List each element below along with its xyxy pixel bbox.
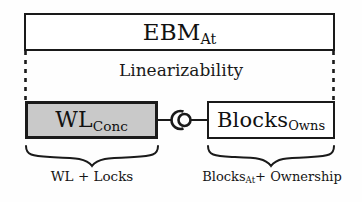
- wl-conc-base: WL: [55, 107, 93, 132]
- blocks-owns-label: BlocksOwns: [217, 110, 325, 131]
- blocks-owns-subscript: Owns: [288, 118, 325, 133]
- ebm-at-subscript: At: [201, 31, 217, 47]
- ebm-at-base: EBM: [143, 19, 201, 45]
- right-caption-part-a-subscript: At: [246, 175, 256, 185]
- blocks-owns-base: Blocks: [217, 108, 288, 132]
- left-caption-part-b: Locks: [93, 168, 133, 184]
- left-brace: [26, 146, 158, 166]
- right-brace: [208, 146, 334, 166]
- socket-icon: [172, 111, 184, 129]
- right-caption: BlocksAt+ Ownership: [192, 170, 352, 183]
- linearizability-label: Linearizability: [0, 60, 362, 80]
- left-caption-part-a: WL: [51, 168, 74, 184]
- right-caption-part-a: Blocks: [202, 169, 245, 184]
- left-caption-operator: +: [78, 168, 89, 184]
- right-caption-part-b: Ownership: [270, 169, 342, 184]
- left-caption: WL + Locks: [16, 170, 168, 184]
- architecture-refinement-diagram: EBMAt Linearizability WLConc BlocksOwns …: [0, 0, 362, 202]
- right-caption-operator: +: [255, 169, 266, 184]
- ebm-at-box[interactable]: EBMAt: [24, 13, 335, 51]
- blocks-owns-box[interactable]: BlocksOwns: [207, 101, 335, 139]
- ebm-at-label: EBMAt: [143, 21, 217, 44]
- wl-conc-label: WLConc: [55, 109, 128, 131]
- wl-conc-subscript: Conc: [93, 118, 128, 134]
- wl-conc-box[interactable]: WLConc: [25, 101, 158, 139]
- ball-icon: [179, 114, 191, 126]
